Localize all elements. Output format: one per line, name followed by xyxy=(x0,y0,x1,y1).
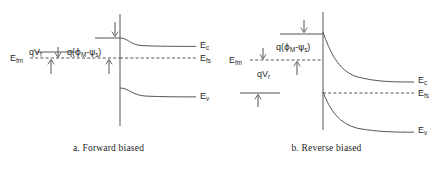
psi-sub: s xyxy=(304,46,307,53)
barrier-prefix: q( xyxy=(276,42,284,52)
bias-label-reverse: qVr xyxy=(257,70,270,79)
barrier-label-reverse: q(ϕM-ψs) xyxy=(276,43,310,52)
conduction-band-curve xyxy=(323,32,414,82)
bias-label-text: qV xyxy=(29,47,40,57)
conduction-label-forward: Ec xyxy=(200,41,209,50)
fermi-semi-sub: fs xyxy=(424,92,429,99)
fermi-semi-label-reverse: Efs xyxy=(418,89,429,98)
valence-label-reverse: Ev xyxy=(418,126,427,135)
barrier-prefix: q( xyxy=(67,47,75,57)
valence-band-curve xyxy=(323,92,414,132)
figure-container: qVf q(ϕM-ψs) Efm Ec Efs Ev a. Forward bi… xyxy=(0,0,435,174)
bias-label-sub: f xyxy=(40,51,42,58)
conduction-sub: c xyxy=(424,79,427,86)
band-diagram-forward xyxy=(0,0,217,140)
conduction-label-reverse: Ec xyxy=(418,76,427,85)
fermi-metal-sub: fm xyxy=(16,57,23,64)
fermi-metal-sub: fm xyxy=(235,59,242,66)
barrier-suffix: ) xyxy=(307,42,310,52)
valence-sub: v xyxy=(424,129,427,136)
caption-reverse-biased: b. Reverse biased xyxy=(218,143,435,153)
bias-label-sub: r xyxy=(268,73,270,80)
conduction-sub: c xyxy=(206,44,209,51)
panel-forward-biased: qVf q(ϕM-ψs) Efm Ec Efs Ev a. Forward bi… xyxy=(0,0,217,174)
psi-sub: s xyxy=(95,51,98,58)
fermi-metal-label-forward: Efm xyxy=(10,54,23,63)
valence-band-curve xyxy=(120,88,196,97)
phi-sub: M xyxy=(81,51,86,58)
phi-sub: M xyxy=(290,46,295,53)
caption-forward-biased: a. Forward biased xyxy=(0,143,217,153)
fermi-semi-sub: fs xyxy=(206,57,211,64)
fermi-semi-label-forward: Efs xyxy=(200,54,211,63)
valence-sub: v xyxy=(206,95,209,102)
bias-label-text: qV xyxy=(257,69,268,79)
barrier-suffix: ) xyxy=(98,47,101,57)
valence-label-forward: Ev xyxy=(200,92,209,101)
panel-reverse-biased: Efm qVr q(ϕM-ψs) Ec Efs Ev b. Reverse bi… xyxy=(218,0,435,174)
barrier-label-forward: q(ϕM-ψs) xyxy=(67,48,101,57)
bias-label-forward: qVf xyxy=(29,48,42,57)
fermi-metal-label-reverse: Efm xyxy=(229,56,242,65)
band-diagram-reverse xyxy=(218,0,435,140)
conduction-band-curve xyxy=(120,38,196,46)
